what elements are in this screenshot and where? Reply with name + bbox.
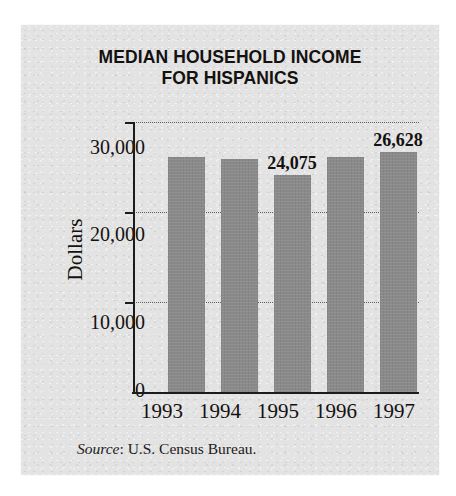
value-label-1997: 26,628 [373,130,423,151]
gridline-30000 [133,122,419,123]
chart-panel: MEDIAN HOUSEHOLD INCOME FOR HISPANICS 30… [21,25,439,475]
bar-1993 [168,157,205,392]
source-text: : U.S. Census Bureau. [119,440,256,457]
bar-1994 [221,159,258,392]
y-axis-line [133,122,135,392]
bar-1996 [327,157,364,392]
x-tick-label-1994: 1994 [191,399,249,424]
bar-1997 [380,152,417,392]
x-tick-label-1996: 1996 [307,399,365,424]
x-axis-line [132,392,419,394]
y-tick-mark-30000 [125,122,133,124]
source-label: Source [77,440,119,457]
plot-area: 24,075 26,628 [133,122,419,392]
y-axis-title: Dollars [63,190,88,310]
value-label-1995: 24,075 [267,153,317,174]
bar-1995 [274,175,311,392]
source-note: Source: U.S. Census Bureau. [77,440,256,458]
chart-page: MEDIAN HOUSEHOLD INCOME FOR HISPANICS 30… [0,0,456,496]
x-tick-label-1995: 1995 [249,399,307,424]
x-tick-label-1997: 1997 [365,399,423,424]
x-axis-tick-labels: 1993 1994 1995 1996 1997 [133,399,423,424]
y-tick-mark-20000 [125,212,133,214]
x-tick-label-1993: 1993 [133,399,191,424]
y-tick-mark-10000 [125,302,133,304]
